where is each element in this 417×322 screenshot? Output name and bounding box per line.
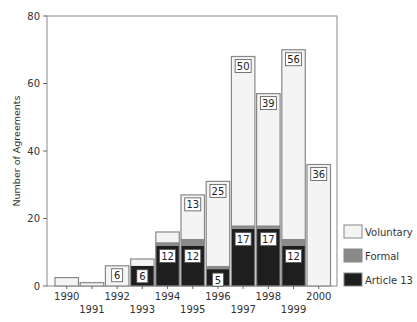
x-tick-label: 1993	[130, 304, 155, 315]
bar-segment-formal	[181, 239, 205, 246]
bars: 6612121352517501739125636	[55, 50, 331, 286]
x-tick-label: 1997	[230, 304, 255, 315]
legend-swatch	[344, 273, 362, 286]
bar-2000: 36	[307, 165, 331, 287]
bar-1999: 1256	[282, 50, 306, 286]
data-label: 50	[237, 61, 250, 72]
legend-label: Voluntary	[365, 227, 413, 238]
legend-item-voluntary: Voluntary	[344, 225, 413, 238]
bar-segment-formal	[156, 242, 180, 245]
bar-1995: 1213	[181, 195, 205, 286]
bar-segment-formal	[282, 239, 306, 246]
x-tick-label: 1991	[79, 304, 104, 315]
bar-1996: 525	[206, 181, 230, 286]
data-label: 36	[312, 169, 325, 180]
bar-segment-voluntary	[282, 50, 306, 239]
bar-segment-voluntary	[307, 165, 331, 287]
data-label: 12	[186, 251, 199, 262]
x-tick-label: 1992	[104, 291, 129, 302]
y-axis: 020406080	[27, 11, 47, 292]
bar-1998: 1739	[257, 94, 281, 286]
y-tick-label: 0	[34, 281, 40, 292]
data-label: 56	[287, 54, 300, 65]
data-label: 12	[287, 251, 300, 262]
y-tick-label: 20	[27, 213, 40, 224]
bar-1990	[55, 278, 79, 286]
x-axis: 1990199119921993199419951996199719981999…	[54, 286, 331, 315]
legend-item-formal: Formal	[344, 249, 399, 262]
legend-label: Article 13	[365, 275, 413, 286]
y-tick-label: 40	[27, 146, 40, 157]
bar-1992: 6	[105, 266, 128, 286]
bar-1997: 1750	[231, 57, 255, 287]
legend-label: Formal	[365, 251, 399, 262]
x-tick-label: 1995	[180, 304, 205, 315]
data-label: 5	[215, 275, 221, 286]
x-tick-label: 1994	[155, 291, 180, 302]
bar-segment-voluntary	[231, 57, 255, 226]
bar-1993: 6	[131, 259, 155, 286]
x-tick-label: 1990	[54, 291, 79, 302]
data-label: 39	[262, 98, 275, 109]
y-axis-label: Number of Agreements	[11, 95, 22, 206]
bar-segment-formal	[206, 266, 230, 269]
y-tick-label: 60	[27, 78, 40, 89]
legend: VoluntaryFormalArticle 13	[344, 225, 413, 286]
data-label: 17	[237, 234, 250, 245]
x-tick-label: 2000	[306, 291, 331, 302]
data-label: 6	[139, 271, 145, 282]
x-tick-label: 1998	[256, 291, 281, 302]
data-label: 6	[114, 270, 120, 281]
x-tick-label: 1999	[281, 304, 306, 315]
y-tick-label: 80	[27, 11, 40, 22]
bar-segment-voluntary	[131, 259, 155, 266]
legend-swatch	[344, 225, 362, 238]
bar-segment-voluntary	[55, 278, 79, 286]
legend-swatch	[344, 249, 362, 262]
stacked-bar-chart: 6612121352517501739125636 020406080 1990…	[0, 0, 417, 322]
bar-segment-formal	[257, 225, 281, 228]
bar-segment-voluntary	[257, 94, 281, 226]
bar-segment-formal	[231, 225, 255, 228]
bar-1991	[80, 283, 104, 286]
data-label: 25	[212, 186, 225, 197]
legend-item-article-13: Article 13	[344, 273, 413, 286]
x-tick-label: 1996	[205, 291, 230, 302]
data-label: 13	[186, 199, 199, 210]
bar-segment-voluntary	[156, 232, 180, 242]
bar-1994: 12	[156, 232, 180, 286]
data-label: 12	[161, 251, 174, 262]
data-label: 17	[262, 234, 275, 245]
